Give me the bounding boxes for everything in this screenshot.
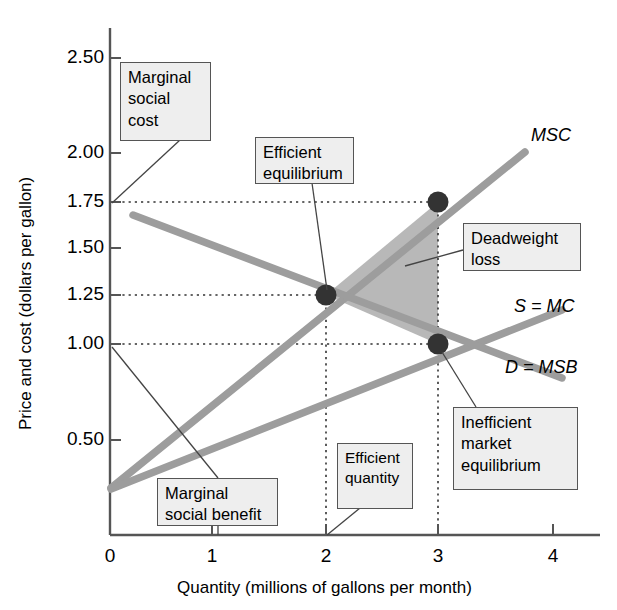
callout-line: Inefficient xyxy=(461,412,570,433)
point-inefficient-market-equilibrium xyxy=(428,334,449,355)
curve-label-s-mc: S = MC xyxy=(514,296,575,317)
x-axis-title: Quantity (millions of gallons per month) xyxy=(177,578,472,598)
y-axis-title: Price and cost (dollars per gallon) xyxy=(16,177,36,430)
curve-label-d-msb: D = MSB xyxy=(505,357,578,378)
callout-line: Deadweight xyxy=(471,228,573,249)
callout-line: social benefit xyxy=(165,504,270,525)
callout-line: quantity xyxy=(345,468,405,488)
callout-efficient-equilibrium: Efficient equilibrium xyxy=(255,137,354,184)
callout-line: Efficient xyxy=(345,448,405,468)
point-msc-at-market-quantity xyxy=(428,192,449,213)
chart-canvas: 2.50 2.00 1.75 1.50 1.25 1.00 0.50 0 1 2… xyxy=(0,0,617,610)
callout-line: Marginal xyxy=(165,483,270,504)
y-tick-2.00: 2.00 xyxy=(24,141,104,163)
callout-efficient-quantity: Efficient quantity xyxy=(337,443,413,509)
y-tick-1.75: 1.75 xyxy=(24,190,104,212)
callout-line: Marginal xyxy=(128,67,203,88)
point-efficient-equilibrium xyxy=(316,285,337,306)
leader-efficient-quantity xyxy=(327,508,360,535)
y-tick-0.50: 0.50 xyxy=(24,428,104,450)
callout-inefficient-market-equilibrium: Inefficient market equilibrium xyxy=(453,407,578,490)
leader-inefficient-market-equilibrium xyxy=(442,352,476,407)
callout-line: equilibrium xyxy=(461,455,570,476)
callout-line: Efficient xyxy=(263,142,346,163)
callout-marginal-social-benefit: Marginal social benefit xyxy=(157,478,278,526)
y-tick-2.50: 2.50 xyxy=(24,46,104,68)
x-tick-2: 2 xyxy=(306,545,346,567)
x-tick-3: 3 xyxy=(418,545,458,567)
y-tick-1.00: 1.00 xyxy=(24,332,104,354)
callout-line: equilibrium xyxy=(263,163,346,184)
y-tick-1.50: 1.50 xyxy=(24,236,104,258)
callout-marginal-social-cost: Marginal social cost xyxy=(120,62,211,141)
callout-line: loss xyxy=(471,249,573,270)
callout-deadweight-loss: Deadweight loss xyxy=(463,223,581,271)
callout-line: social xyxy=(128,88,203,109)
callout-line: cost xyxy=(128,110,203,131)
curve-label-msc: MSC xyxy=(531,125,571,146)
x-tick-4: 4 xyxy=(533,545,573,567)
x-tick-1: 1 xyxy=(192,545,232,567)
callout-line: market xyxy=(461,433,570,454)
leader-efficient-equilibrium xyxy=(312,183,327,290)
y-tick-1.25: 1.25 xyxy=(24,283,104,305)
leader-marginal-social-cost xyxy=(112,140,180,203)
x-tick-0: 0 xyxy=(90,545,130,567)
